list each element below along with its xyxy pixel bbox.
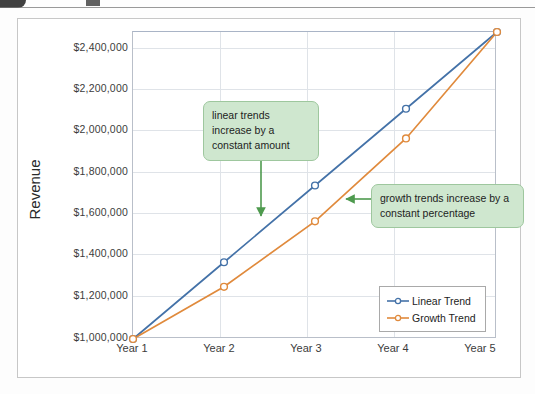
x-tick-label: Year 1 xyxy=(116,342,147,354)
y-axis-title: Revenue xyxy=(24,119,44,259)
x-axis-tick-labels: Year 1 Year 2 Year 3 Year 4 Year 5 xyxy=(132,342,496,362)
legend-swatch-growth-icon xyxy=(387,313,409,323)
x-tick-label: Year 5 xyxy=(464,342,495,354)
scanned-page: Revenue $2,400,000 $2,200,000 $2,000,000… xyxy=(0,0,535,394)
data-point-marker[interactable] xyxy=(312,182,319,189)
data-point-marker[interactable] xyxy=(221,283,228,290)
y-tick-label: $1,200,000 xyxy=(73,289,128,301)
y-tick-label: $1,800,000 xyxy=(73,165,128,177)
y-tick-label: $1,400,000 xyxy=(73,247,128,259)
data-point-marker[interactable] xyxy=(494,29,501,36)
callout-growth-trend[interactable]: growth trends increase by a constant per… xyxy=(371,184,524,228)
y-tick-label: $2,400,000 xyxy=(73,41,128,53)
data-point-marker[interactable] xyxy=(221,259,228,266)
x-tick-label: Year 2 xyxy=(203,342,234,354)
data-point-marker[interactable] xyxy=(312,218,319,225)
legend-swatch-linear-icon xyxy=(387,296,409,306)
scan-artifact-blob-mid xyxy=(86,0,100,6)
scan-artifact-rule xyxy=(0,7,535,8)
x-tick-label: Year 3 xyxy=(290,342,321,354)
legend-item-linear-trend[interactable]: Linear Trend xyxy=(387,292,478,309)
legend-label: Linear Trend xyxy=(412,295,471,307)
x-tick-label: Year 4 xyxy=(377,342,408,354)
legend-label: Growth Trend xyxy=(412,312,476,324)
y-axis-title-label: Revenue xyxy=(26,159,43,219)
chart-legend[interactable]: Linear Trend Growth Trend xyxy=(379,286,486,332)
callout-growth-text: growth trends increase by a constant per… xyxy=(380,192,509,219)
callout-linear-trend[interactable]: linear trends increase by a constant amo… xyxy=(203,101,319,161)
data-point-marker[interactable] xyxy=(403,135,410,142)
callout-linear-text: linear trends increase by a constant amo… xyxy=(212,109,290,151)
y-axis-tick-labels: $2,400,000 $2,200,000 $2,000,000 $1,800,… xyxy=(48,31,128,338)
y-tick-label: $2,000,000 xyxy=(73,123,128,135)
data-point-marker[interactable] xyxy=(403,105,410,112)
y-tick-label: $2,200,000 xyxy=(73,82,128,94)
legend-item-growth-trend[interactable]: Growth Trend xyxy=(387,309,478,326)
y-tick-label: $1,600,000 xyxy=(73,206,128,218)
